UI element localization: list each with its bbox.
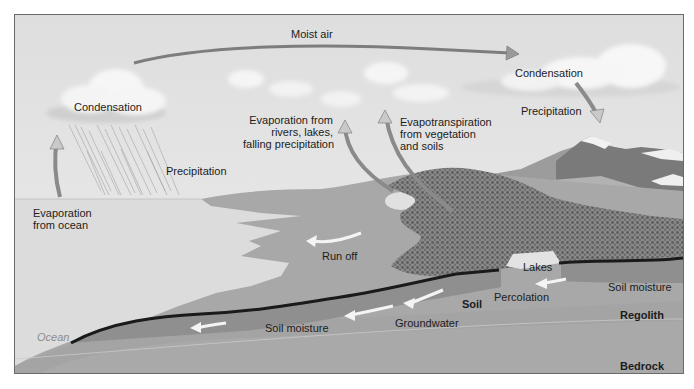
label-precipitation-left: Precipitation bbox=[166, 165, 227, 177]
label-evaporation-rivers-line1: Evaporation from bbox=[243, 114, 333, 126]
label-groundwater: Groundwater bbox=[395, 317, 459, 329]
water-cycle-diagram: Moist air Condensation Condensation Prec… bbox=[14, 14, 684, 374]
label-run-off: Run off bbox=[322, 250, 357, 262]
label-condensation-right: Condensation bbox=[515, 67, 583, 79]
label-condensation-left: Condensation bbox=[74, 101, 142, 113]
label-percolation: Percolation bbox=[494, 291, 549, 303]
label-regolith: Regolith bbox=[620, 309, 664, 321]
label-evapotranspiration: Evapotranspiration from vegetation and s… bbox=[400, 116, 492, 152]
label-bedrock: Bedrock bbox=[620, 360, 664, 372]
label-moist-air: Moist air bbox=[291, 28, 333, 40]
label-evapotranspiration-line2: from vegetation bbox=[400, 128, 492, 140]
label-evaporation-rivers-line3: falling precipitation bbox=[243, 138, 333, 150]
label-soil: Soil bbox=[462, 298, 482, 310]
label-evapotranspiration-line1: Evapotranspiration bbox=[400, 116, 492, 128]
label-evaporation-rivers: Evaporation from rivers, lakes, falling … bbox=[243, 114, 333, 150]
label-lakes: Lakes bbox=[523, 261, 552, 273]
label-evapotranspiration-line3: and soils bbox=[400, 140, 492, 152]
label-precipitation-right: Precipitation bbox=[521, 105, 582, 117]
label-evaporation-ocean: Evaporation from ocean bbox=[33, 207, 92, 231]
label-soil-moisture-left: Soil moisture bbox=[265, 322, 329, 334]
label-evaporation-ocean-line2: from ocean bbox=[33, 219, 92, 231]
label-evaporation-ocean-line1: Evaporation bbox=[33, 207, 92, 219]
label-ocean: Ocean bbox=[37, 331, 69, 343]
label-soil-moisture-right: Soil moisture bbox=[608, 281, 672, 293]
label-evaporation-rivers-line2: rivers, lakes, bbox=[243, 126, 333, 138]
